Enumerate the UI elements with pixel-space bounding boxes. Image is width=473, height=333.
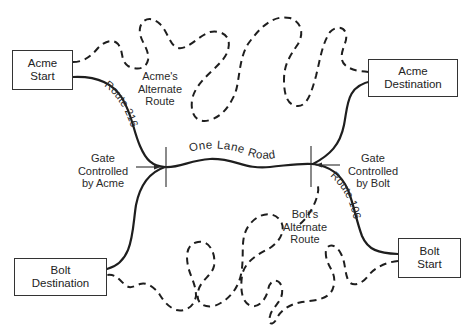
acme-gate-line1: Gate [70,152,136,165]
bolt-gate-line3: by Bolt [340,177,406,190]
bolt-gate-label: Gate Controlled by Bolt [340,152,406,190]
bolt-destination-box: Bolt Destination [14,258,107,296]
acme-destination-line2: Destination [384,78,442,91]
acme-start-line2: Start [30,70,54,83]
bolt-start-line2: Start [417,258,441,271]
bolt-gate-line2: Controlled [340,165,406,178]
acme-alt-line3: Route [130,95,190,108]
acme-alternate-route-path [73,17,372,121]
acme-gate-line2: Controlled [70,165,136,178]
acme-destination-line1: Acme [398,65,427,78]
acme-start-box: Acme Start [12,50,73,90]
acme-start-line1: Acme [28,57,57,70]
bolt-alt-line1: Bolt's [275,208,335,221]
bolt-alt-line2: Alternate [275,221,335,234]
bolt-start-box: Bolt Start [398,238,461,278]
bolt-alternate-route-label: Bolt's Alternate Route [275,208,335,246]
acme-destination-box: Acme Destination [368,59,458,97]
one-lane-road-path [165,159,313,168]
acme-alt-line1: Acme's [130,70,190,83]
acme-alt-line2: Alternate [130,83,190,96]
bolt-alternate-route-path [107,214,398,323]
bolt-alt-line3: Route [275,233,335,246]
acme-gate-label: Gate Controlled by Acme [70,152,136,190]
bolt-destination-line2: Destination [32,277,90,290]
bolt-destination-line1: Bolt [51,264,71,277]
one-lane-road-label: One Lane Road [188,138,277,160]
bolt-start-line1: Bolt [420,245,440,258]
acme-gate-line3: by Acme [70,177,136,190]
acme-alternate-route-label: Acme's Alternate Route [130,70,190,108]
bolt-gate-line1: Gate [340,152,406,165]
